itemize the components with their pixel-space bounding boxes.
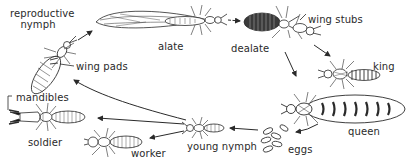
young-nymph-illustration	[182, 117, 224, 139]
arrow-dealate-to-king	[314, 45, 330, 56]
eggs-illustration	[261, 124, 290, 153]
termite-life-cycle-diagram: reproductive nymph wing pads alate deala…	[0, 0, 414, 163]
arrow-young-nymph-to-reproductive-nymph	[74, 80, 186, 120]
arrow-eggs-to-young-nymph	[230, 128, 258, 130]
label-alate: alate	[158, 41, 184, 52]
king-illustration	[318, 59, 380, 89]
label-wing-pads: wing pads	[76, 61, 128, 72]
label-soldier: soldier	[28, 137, 62, 148]
arrow-young-nymph-to-worker	[150, 131, 184, 138]
label-wing-stubs: wing stubs	[308, 14, 363, 25]
label-eggs: eggs	[288, 144, 312, 155]
label-worker: worker	[131, 148, 166, 159]
arrow-young-nymph-to-soldier	[98, 118, 184, 124]
label-queen: queen	[348, 126, 380, 137]
reproductive-nymph-illustration	[26, 36, 77, 98]
arrow-queen-to-eggs	[296, 124, 318, 132]
queen-illustration	[281, 92, 405, 126]
label-reproductive-nymph-line2: nymph	[10, 19, 66, 30]
label-young-nymph: young nymph	[187, 141, 257, 152]
arrow-nymph-to-alate	[78, 31, 92, 40]
wing-pads-pointer	[60, 64, 74, 66]
wing-stubs-pointer	[300, 14, 306, 20]
alate-illustration	[96, 5, 227, 35]
arrow-dealate-to-queen	[285, 52, 296, 76]
label-reproductive-nymph: reproductive nymph	[10, 8, 66, 30]
label-king: king	[373, 61, 395, 72]
label-dealate: dealate	[231, 43, 269, 54]
label-reproductive-nymph-line1: reproductive	[10, 8, 66, 19]
label-mandibles: mandibles	[16, 92, 69, 103]
arrow-alate-to-dealate	[228, 20, 240, 21]
life-cycle-arrows	[60, 14, 330, 138]
